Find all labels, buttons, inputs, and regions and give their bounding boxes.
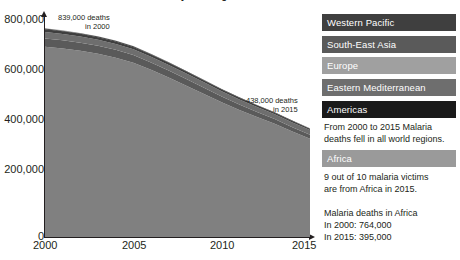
- legend-item-europe[interactable]: Europe: [322, 57, 456, 74]
- regions-note-line1: From 2000 to 2015 Malaria: [324, 122, 460, 134]
- x-tick-2015: 2015: [292, 240, 316, 251]
- y-tick-800000: 800,000: [2, 14, 44, 25]
- y-tick-600000: 600,000: [2, 64, 44, 75]
- africa-stats-title: Malaria deaths in Africa: [324, 208, 460, 220]
- stacked-area-series: [45, 18, 310, 237]
- annotation-2000-line1: 839,000 deaths: [58, 13, 110, 22]
- x-tick-2010: 2010: [210, 240, 234, 251]
- africa-stats-2000: In 2000: 764,000: [324, 220, 460, 232]
- legend-item-africa[interactable]: Africa: [322, 150, 456, 167]
- annotation-2000-line2: in 2000: [58, 22, 110, 31]
- africa-note-line2: are from Africa in 2015.: [324, 184, 460, 196]
- y-tick-400000: 400,000: [2, 114, 44, 125]
- legend-item-eastern-mediterranean[interactable]: Eastern Mediterranean: [322, 79, 456, 96]
- africa-stats: Malaria deaths in Africa In 2000: 764,00…: [324, 208, 460, 244]
- africa-note-line1: 9 out of 10 malaria victims: [324, 172, 460, 184]
- africa-note: 9 out of 10 malaria victims are from Afr…: [324, 172, 460, 196]
- legend-panel: Western Pacific South-East Asia Europe E…: [322, 0, 460, 260]
- legend-label-americas: Americas: [327, 104, 367, 115]
- legend-item-south-east-asia[interactable]: South-East Asia: [322, 36, 456, 53]
- y-tick-200000: 200,000: [2, 164, 44, 175]
- legend-label-western-pacific: Western Pacific: [327, 17, 394, 28]
- legend-label-eastern-mediterranean: Eastern Mediterranean: [327, 82, 426, 93]
- legend-label-europe: Europe: [327, 60, 358, 71]
- annotation-2015-line2: in 2015: [246, 105, 298, 114]
- plot-area: [45, 18, 310, 237]
- legend-label-africa: Africa: [327, 153, 352, 164]
- legend-item-western-pacific[interactable]: Western Pacific: [322, 14, 456, 31]
- y-axis-ticks: 800,000 600,000 400,000 200,000 0: [0, 0, 44, 260]
- annotation-2015-total: 438,000 deaths in 2015: [246, 96, 298, 114]
- x-axis-line: [44, 237, 310, 238]
- regions-note: From 2000 to 2015 Malaria deaths fell in…: [324, 122, 460, 146]
- annotation-2000-total: 839,000 deaths in 2000: [58, 13, 110, 31]
- annotation-2015-line1: 438,000 deaths: [246, 96, 298, 105]
- x-tick-2000: 2000: [33, 240, 57, 251]
- x-tick-2005: 2005: [122, 240, 146, 251]
- legend-item-americas[interactable]: Americas: [322, 101, 456, 118]
- malaria-deaths-area-chart: 800,000 600,000 400,000 200,000 0 2000 2…: [0, 0, 318, 260]
- africa-stats-2015: In 2015: 395,000: [324, 232, 460, 244]
- regions-note-line2: deaths fell in all world regions.: [324, 134, 460, 146]
- screenshot-root: Global malaria deaths by WHO region 800,…: [0, 0, 460, 260]
- legend-label-south-east-asia: South-East Asia: [327, 39, 396, 50]
